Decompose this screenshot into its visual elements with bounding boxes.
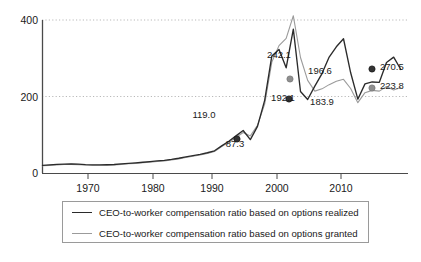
chart-legend: CEO-to-worker compensation ratio based o… (62, 201, 369, 243)
x-tick-label-1970: 1970 (76, 182, 100, 194)
y-tick-label-0: 0 (32, 167, 38, 179)
data-label-119-0: 119.0 (192, 109, 215, 120)
data-label-192-1: 192.1 (271, 92, 295, 103)
y-tick-label-400: 400 (20, 14, 38, 26)
x-axis-ticks (88, 174, 341, 180)
legend-item-granted[interactable]: CEO-to-worker compensation ratio based o… (63, 223, 368, 244)
x-tick-label-1990: 1990 (200, 182, 224, 194)
legend-swatch-realized-icon (72, 212, 92, 213)
data-label-242-1: 242.1 (267, 49, 291, 60)
x-tick-label-1980: 1980 (141, 182, 165, 194)
data-label-196-6: 196.6 (308, 65, 332, 76)
data-point-marker-242-1 (287, 76, 293, 82)
legend-label-granted: CEO-to-worker compensation ratio based o… (99, 229, 358, 239)
x-axis-labels: 1970 1980 1990 2000 2010 (76, 182, 353, 194)
data-label-270-5: 270.5 (380, 61, 404, 72)
annotation-labels: 119.087.3242.1192.1196.6183.9270.5223.8 (192, 49, 403, 149)
gridlines (42, 20, 408, 97)
legend-label-realized: CEO-to-worker compensation ratio based o… (99, 208, 359, 218)
y-tick-label-200: 200 (20, 91, 38, 103)
x-tick-label-2010: 2010 (329, 182, 353, 194)
data-label-183-9: 183.9 (310, 96, 334, 107)
x-tick-label-2000: 2000 (265, 182, 289, 194)
data-point-marker-270-5 (369, 66, 375, 72)
series-line-realized (43, 29, 401, 165)
data-label-87-3: 87.3 (226, 138, 245, 149)
y-axis-labels: 400 200 0 (20, 14, 38, 179)
legend-item-realized[interactable]: CEO-to-worker compensation ratio based o… (63, 202, 368, 223)
series-line-granted (43, 16, 401, 166)
data-point-marker-223-8 (369, 85, 375, 91)
legend-swatch-granted-icon (72, 233, 92, 234)
series-group (43, 16, 401, 166)
data-label-223-8: 223.8 (380, 80, 404, 91)
chart-container: 400 200 0 1970 1980 1990 2000 2010 119.0… (0, 0, 421, 262)
